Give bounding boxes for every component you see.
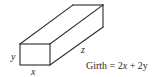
formula-plus: + (127, 60, 138, 71)
formula-lhs: Girth (86, 60, 107, 71)
formula-eq: = (107, 60, 118, 71)
label-x: x (30, 66, 36, 77)
label-z: z (80, 44, 85, 55)
top-left-edge (20, 5, 73, 44)
top-right-edge (50, 5, 103, 44)
girth-formula: Girth = 2x + 2y (86, 60, 148, 71)
label-y: y (10, 51, 16, 62)
formula-var-y: y (143, 60, 148, 71)
box-diagram: y x z Girth = 2x + 2y (0, 0, 156, 77)
front-face (20, 44, 50, 65)
